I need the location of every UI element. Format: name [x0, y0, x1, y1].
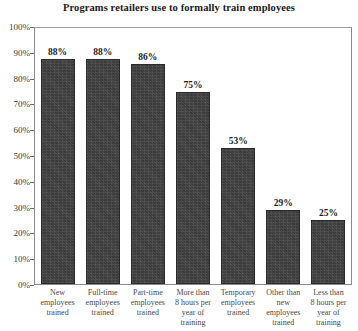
x-axis-category-label: Temporaryemployeestrained: [213, 288, 264, 318]
x-axis-category-label: Newemployeestrained: [32, 288, 83, 318]
x-axis-label-line: Temporary: [213, 288, 264, 298]
y-axis-tick-label: 20%: [0, 227, 30, 239]
x-axis-label-line: New: [32, 288, 83, 298]
bar: [41, 59, 75, 284]
x-axis-label-line: Full-time: [77, 288, 128, 298]
x-axis-label-line: training: [303, 318, 354, 328]
y-axis-tick-label: 100%: [0, 21, 30, 33]
x-axis-label-line: employees: [122, 298, 173, 308]
x-axis-label-line: new: [258, 298, 309, 308]
bar-group: 75%: [176, 28, 210, 284]
bar-value-label: 29%: [256, 198, 310, 208]
bar-group: 88%: [41, 28, 75, 284]
y-axis-tick-mark: [30, 233, 34, 234]
bar: [221, 148, 255, 284]
x-axis-label-line: employees: [77, 298, 128, 308]
chart-screenshot: Programs retailers use to formally train…: [0, 0, 358, 331]
y-axis-tick-label: 50%: [0, 150, 30, 162]
x-axis-label-line: employees: [32, 298, 83, 308]
bar: [86, 59, 120, 284]
x-axis-label-line: 8 hours per: [167, 298, 218, 308]
y-axis-tick-label: 0%: [0, 279, 30, 291]
y-axis-tick-label: 30%: [0, 202, 30, 214]
y-axis-tick-label: 80%: [0, 73, 30, 85]
x-axis-category-label: Other thannewemployeestrained: [258, 288, 309, 328]
bar-group: 53%: [221, 28, 255, 284]
y-axis-tick-label: 70%: [0, 98, 30, 110]
y-axis-tick-mark: [30, 259, 34, 260]
y-axis-tick-mark: [30, 208, 34, 209]
y-axis-tick-mark: [30, 156, 34, 157]
y-axis-tick-label: 90%: [0, 47, 30, 59]
x-axis-category-label: Less than8 hours peryear oftraining: [303, 288, 354, 328]
bar-group: 29%: [266, 28, 300, 284]
bar: [176, 92, 210, 284]
x-axis-label-line: trained: [77, 308, 128, 318]
y-axis-tick-mark: [30, 104, 34, 105]
bar: [311, 220, 345, 284]
x-axis-label-line: year of: [167, 308, 218, 318]
x-axis-label-line: employees: [258, 308, 309, 318]
x-axis-label-line: trained: [122, 308, 173, 318]
y-axis-tick-mark: [30, 79, 34, 80]
x-axis-label-line: Other than: [258, 288, 309, 298]
x-axis-label-line: training: [167, 318, 218, 328]
x-axis-category-label: Part-timeemployeestrained: [122, 288, 173, 318]
bar-value-label: 75%: [166, 80, 220, 90]
x-axis-label-line: 8 hours per: [303, 298, 354, 308]
y-axis-tick-mark: [30, 285, 34, 286]
x-axis-category-label: More than8 hours peryear oftraining: [167, 288, 218, 328]
bar-value-label: 86%: [121, 52, 175, 62]
x-axis-label-line: Less than: [303, 288, 354, 298]
x-axis-label-line: trained: [258, 318, 309, 328]
y-axis-tick-label: 10%: [0, 253, 30, 265]
y-axis: 100%90%80%70%60%50%40%30%20%10%0%: [0, 27, 30, 285]
y-axis-tick-label: 60%: [0, 124, 30, 136]
bar-group: 86%: [131, 28, 165, 284]
chart-title: Programs retailers use to formally train…: [0, 2, 358, 13]
x-axis-label-line: More than: [167, 288, 218, 298]
bars-area: 88%88%86%75%53%29%25%: [35, 28, 351, 284]
x-axis-label-line: employees: [213, 298, 264, 308]
x-axis: NewemployeestrainedFull-timeemployeestra…: [35, 288, 351, 331]
y-axis-tick-mark: [30, 182, 34, 183]
bar-value-label: 53%: [211, 136, 265, 146]
bar-group: 88%: [86, 28, 120, 284]
x-axis-label-line: Part-time: [122, 288, 173, 298]
x-axis-category-label: Full-timeemployeestrained: [77, 288, 128, 318]
y-axis-tick-mark: [30, 27, 34, 28]
y-axis-tick-mark: [30, 130, 34, 131]
y-axis-tick-label: 40%: [0, 176, 30, 188]
x-axis-label-line: trained: [32, 308, 83, 318]
bar-group: 25%: [311, 28, 345, 284]
bar: [131, 64, 165, 284]
bar: [266, 210, 300, 284]
bar-value-label: 25%: [301, 208, 355, 218]
x-axis-label-line: year of: [303, 308, 354, 318]
x-axis-label-line: trained: [213, 308, 264, 318]
